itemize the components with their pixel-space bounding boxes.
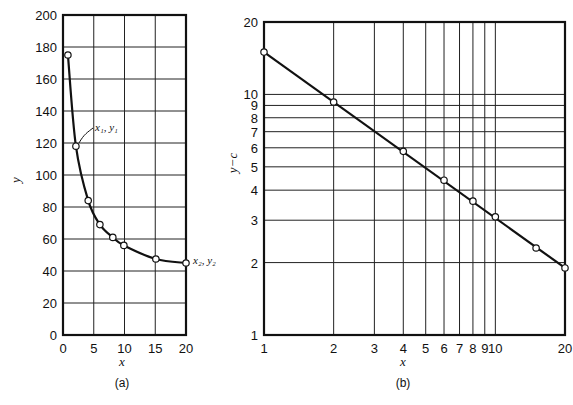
y-tick-label: 6	[251, 141, 258, 156]
y-tick-label: 140	[35, 104, 57, 119]
x-tick-label: 1	[260, 341, 267, 356]
data-point-marker	[441, 177, 447, 183]
chart-b-y-label: y−c	[225, 153, 240, 176]
plot-frame	[264, 22, 565, 335]
data-point-marker	[562, 265, 568, 271]
x-tick-label: 5	[90, 341, 97, 356]
y-tick-label: 5	[251, 160, 258, 175]
data-point-marker	[470, 198, 476, 204]
y-tick-label: 2	[251, 256, 258, 271]
y-tick-label: 7	[251, 125, 258, 140]
data-point-marker	[110, 234, 116, 240]
chart-b-caption: (b)	[396, 376, 411, 390]
data-point-marker	[97, 221, 103, 227]
y-tick-label: 40	[43, 264, 57, 279]
y-tick-label: 100	[35, 168, 57, 183]
x-tick-label: 0	[59, 341, 66, 356]
chart-a-y-label: y	[8, 177, 23, 185]
x-tick-label: 3	[371, 341, 378, 356]
x-tick-label: 15	[148, 341, 162, 356]
data-point-marker	[73, 143, 79, 149]
data-line	[68, 55, 186, 263]
x-tick-label: 20	[558, 341, 572, 356]
y-tick-label: 20	[43, 296, 57, 311]
x-tick-label: 2	[330, 341, 337, 356]
data-point-marker	[121, 242, 127, 248]
data-point-marker	[261, 49, 267, 55]
chart-a: 05101520020406080100120140160180200	[35, 8, 193, 356]
x-tick-label: 7	[456, 341, 463, 356]
annotation-leader-1	[79, 128, 93, 143]
data-line	[264, 52, 565, 268]
x-tick-label: 10	[488, 341, 502, 356]
y-tick-label: 120	[35, 136, 57, 151]
y-tick-label: 160	[35, 72, 57, 87]
data-point-marker	[183, 260, 189, 266]
data-point-marker	[85, 197, 91, 203]
data-point-marker	[65, 52, 71, 58]
chart-a-caption: (a)	[115, 376, 130, 390]
y-tick-label: 4	[251, 183, 258, 198]
y-tick-label: 0	[50, 328, 57, 343]
chart-a-x-label: x	[118, 354, 125, 369]
y-tick-label: 80	[43, 200, 57, 215]
chart-b-x-label: x	[399, 354, 406, 369]
data-point-marker	[330, 99, 336, 105]
y-tick-label: 60	[43, 232, 57, 247]
y-tick-label: 3	[251, 213, 258, 228]
annotation-x1-y1: x₁, y₁	[94, 121, 118, 133]
x-tick-label: 8	[469, 341, 476, 356]
chart-b: 12345678910201234567891020	[244, 15, 573, 356]
data-point-marker	[153, 256, 159, 262]
y-tick-label: 180	[35, 40, 57, 55]
data-point-marker	[400, 148, 406, 154]
y-tick-label: 200	[35, 8, 57, 23]
data-point-marker	[492, 214, 498, 220]
x-tick-label: 20	[179, 341, 193, 356]
figure: 05101520020406080100120140160180200 1234…	[0, 0, 573, 405]
y-tick-label: 10	[244, 87, 258, 102]
y-tick-label: 1	[251, 328, 258, 343]
x-tick-label: 6	[440, 341, 447, 356]
annotation-x2-y2: x₂, y₂	[192, 254, 216, 266]
x-tick-label: 5	[422, 341, 429, 356]
y-tick-label: 20	[244, 15, 258, 30]
data-point-marker	[533, 245, 539, 251]
